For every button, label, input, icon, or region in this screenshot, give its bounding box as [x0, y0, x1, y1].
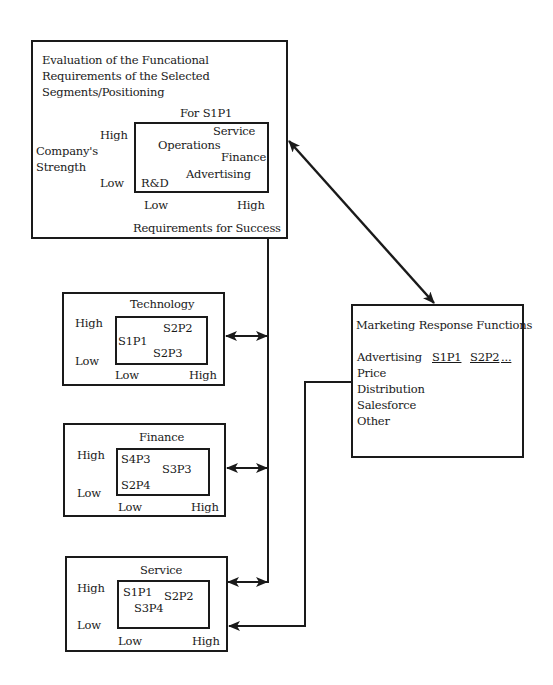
technology-title: Technology: [130, 297, 194, 311]
matrix-title: For S1P1: [180, 106, 232, 120]
marketing-row-salesforce: Salesforce: [357, 398, 416, 412]
service-y-low: Low: [77, 618, 101, 632]
evaluation-title-line-1: Evaluation of the Funcational: [42, 52, 209, 69]
marketing-row-distribution: Distribution: [357, 382, 425, 396]
technology-x-high: High: [189, 368, 217, 382]
finance-item-s4p3: S4P3: [121, 452, 150, 466]
technology-x-low: Low: [115, 368, 139, 382]
marketing-column-s1p1: S1P1: [432, 350, 461, 364]
matrix-item-advertising: Advertising: [186, 167, 251, 181]
service-item-s2p2: S2P2: [164, 589, 193, 603]
technology-y-low: Low: [75, 354, 99, 368]
service-y-high: High: [77, 581, 105, 595]
service-x-low: Low: [118, 634, 142, 648]
finance-y-high: High: [77, 448, 105, 462]
marketing-title: Marketing Response Functions: [356, 318, 532, 332]
service-title: Service: [140, 563, 182, 577]
finance-x-high: High: [191, 500, 219, 514]
finance-item-s3p3: S3P3: [162, 462, 191, 476]
matrix-item-finance: Finance: [221, 150, 266, 164]
main-to-marketing-arrow: [289, 141, 434, 303]
evaluation-title-line-3: Segments/Positioning: [42, 84, 164, 101]
technology-y-high: High: [75, 316, 103, 330]
x-axis-label: Requirements for Success: [133, 221, 281, 235]
technology-item-s1p1: S1P1: [118, 334, 147, 348]
y-low-label: Low: [100, 176, 124, 190]
marketing-row-price: Price: [357, 366, 386, 380]
marketing-to-service-arrow: [229, 382, 351, 626]
evaluation-title-line-2: Requirements of the Selected: [42, 68, 210, 85]
finance-item-s2p4: S2P4: [121, 478, 150, 492]
finance-y-low: Low: [77, 486, 101, 500]
y-axis-label-line-2: Strength: [36, 160, 86, 174]
x-low-label: Low: [144, 198, 168, 212]
technology-item-s2p3: S2P3: [153, 346, 182, 360]
finance-x-low: Low: [118, 500, 142, 514]
marketing-column-s2p2: S2P2: [470, 350, 499, 364]
service-item-s3p4: S3P4: [134, 601, 163, 615]
technology-item-s2p2: S2P2: [163, 321, 192, 335]
marketing-row-other: Other: [357, 414, 390, 428]
marketing-row-advertising: Advertising: [357, 350, 422, 364]
matrix-item-service: Service: [213, 124, 255, 138]
finance-title: Finance: [139, 430, 184, 444]
y-high-label: High: [100, 128, 128, 142]
y-axis-label-line-1: Company's: [36, 144, 98, 158]
marketing-column-more: ...: [501, 350, 511, 364]
x-high-label: High: [237, 198, 265, 212]
matrix-item-operations: Operations: [158, 138, 220, 152]
service-x-high: High: [192, 634, 220, 648]
service-item-s1p1: S1P1: [123, 585, 152, 599]
matrix-item-rnd: R&D: [141, 176, 169, 190]
